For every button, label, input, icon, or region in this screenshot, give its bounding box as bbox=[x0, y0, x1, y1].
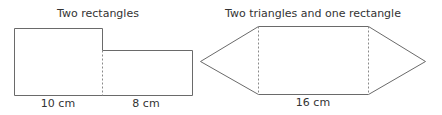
label-10cm: 10 cm bbox=[41, 97, 75, 110]
label-16cm: 16 cm bbox=[296, 96, 330, 109]
two-rectangles-figure bbox=[15, 29, 193, 96]
hexagon-outline bbox=[201, 27, 426, 95]
triangles-rectangle-figure bbox=[201, 27, 426, 95]
diagram2-title: Two triangles and one rectangle bbox=[225, 7, 401, 20]
composite-outline bbox=[15, 29, 193, 96]
diagram1-title: Two rectangles bbox=[57, 7, 139, 20]
label-8cm: 8 cm bbox=[132, 97, 159, 110]
diagram-canvas: Two rectangles 10 cm 8 cm Two triangles … bbox=[0, 0, 442, 115]
